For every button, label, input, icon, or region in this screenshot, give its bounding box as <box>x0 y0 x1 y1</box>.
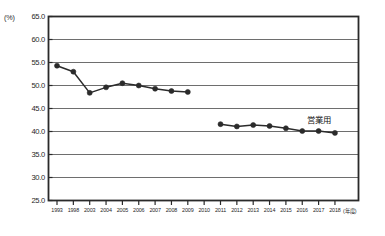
x-tick-label: 2010 <box>198 207 209 213</box>
x-tick-label: 2017 <box>313 207 324 213</box>
x-tick-label: 2008 <box>166 207 177 213</box>
x-tick-label: 2011 <box>215 207 226 213</box>
series-2-marker <box>218 122 223 127</box>
series-1-marker <box>153 86 158 91</box>
series-2-marker <box>332 130 337 135</box>
x-tick-label: 2003 <box>84 207 95 213</box>
series-2-marker <box>234 124 239 129</box>
series-2-marker <box>283 126 288 131</box>
x-tick-label: 2012 <box>231 207 242 213</box>
x-tick-label: 2004 <box>100 207 111 213</box>
x-tick-label: 2014 <box>264 207 275 213</box>
series-2-marker <box>316 129 321 134</box>
series-2-marker <box>300 129 305 134</box>
x-tick-label: 1993 <box>51 207 62 213</box>
series-1-marker <box>104 85 109 90</box>
series-1-marker <box>169 89 174 94</box>
series-1-marker <box>71 69 76 74</box>
x-tick-label: 2013 <box>247 207 258 213</box>
x-tick-label: 2006 <box>133 207 144 213</box>
x-tick-label: 2005 <box>117 207 128 213</box>
x-tick-label: 2018 <box>329 207 340 213</box>
series-1-marker <box>55 63 60 68</box>
series-2-marker <box>267 123 272 128</box>
series-1-marker <box>120 81 125 86</box>
x-tick-label: 1998 <box>68 207 79 213</box>
x-tick-label: 2009 <box>182 207 193 213</box>
x-tick-label: 2016 <box>297 207 308 213</box>
line-chart-figure: (%) 65.0 60.0 55.0 50.0 45.0 40.0 35.0 3… <box>0 0 385 236</box>
x-axis-unit-label: (年度) <box>343 207 357 215</box>
series-2-marker <box>251 123 256 128</box>
x-tick-label: 2007 <box>149 207 160 213</box>
x-tick-label: 2015 <box>280 207 291 213</box>
series-1-marker <box>87 90 92 95</box>
series-label-commercial: 営業用 <box>307 113 332 125</box>
series-1-marker <box>136 83 141 88</box>
series-1-marker <box>185 89 190 94</box>
